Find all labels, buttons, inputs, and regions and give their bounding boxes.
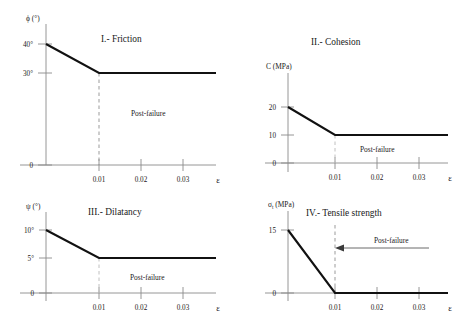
panel-title: III.- Dilatancy: [88, 207, 142, 217]
panel-title: I.- Friction: [101, 34, 142, 44]
data-series-cohesion: [288, 107, 448, 135]
x-tick-label-002: 0.02: [135, 176, 148, 184]
x-tick-label-003: 0.03: [177, 176, 190, 184]
panel-tensile-strength: σt (MPa) 15 0 0.01 0.02 0.03 ε IV.- Tens…: [229, 195, 459, 327]
y-axis-label: ψ (°): [26, 202, 41, 211]
x-tick-label-002: 0.02: [371, 304, 384, 312]
y-tick-label-30: 30°: [23, 70, 33, 78]
figure-root: ϕ (°) 40° 30° 0 0.01 0.02 0.03 ε I.- Fri…: [0, 0, 459, 327]
y-axis-label: σt (MPa): [268, 200, 295, 210]
y-tick-label-0: 0: [30, 290, 34, 298]
y-axis-label-units: (MPa): [273, 200, 294, 209]
x-tick-label-001: 0.01: [93, 304, 106, 312]
panel-tensile-strength-plot: σt (MPa) 15 0 0.01 0.02 0.03 ε IV.- Tens…: [229, 195, 459, 327]
data-series-tensile-strength: [288, 230, 448, 293]
y-axis-label: ϕ (°): [26, 14, 40, 23]
post-failure-annotation: Post-failure: [131, 109, 166, 118]
post-failure-annotation: Post-failure: [374, 236, 409, 245]
x-tick-label-001: 0.01: [329, 174, 342, 182]
y-tick-label-10: 10: [269, 132, 277, 140]
x-tick-label-002: 0.02: [135, 304, 148, 312]
post-failure-annotation: Post-failure: [360, 145, 395, 154]
panel-cohesion: C (MPa) 20 10 0 0.01 0.02 0.03 ε II.- Co…: [229, 0, 459, 195]
data-series-friction: [46, 44, 216, 73]
x-tick-label-003: 0.03: [413, 304, 426, 312]
x-axis-label: ε: [448, 173, 452, 183]
panel-friction-plot: ϕ (°) 40° 30° 0 0.01 0.02 0.03 ε I.- Fri…: [0, 0, 230, 195]
y-tick-label-0: 0: [272, 290, 276, 298]
y-axis-label: C (MPa): [266, 62, 292, 71]
data-series-dilatancy: [46, 230, 216, 258]
x-tick-label-003: 0.03: [413, 174, 426, 182]
post-failure-annotation: Post-failure: [130, 273, 165, 282]
x-axis-label: ε: [216, 175, 220, 185]
y-tick-label-20: 20: [269, 104, 277, 112]
y-tick-label-5: 5°: [28, 255, 35, 263]
y-tick-label-40: 40°: [23, 41, 33, 49]
x-tick-label-001: 0.01: [93, 176, 106, 184]
post-failure-arrow-head-icon: [335, 245, 344, 252]
y-tick-label-0: 0: [29, 162, 33, 170]
panel-cohesion-plot: C (MPa) 20 10 0 0.01 0.02 0.03 ε II.- Co…: [229, 0, 459, 195]
x-axis-label: ε: [216, 303, 220, 313]
x-tick-label-002: 0.02: [371, 174, 384, 182]
x-tick-label-001: 0.01: [329, 304, 342, 312]
panel-friction: ϕ (°) 40° 30° 0 0.01 0.02 0.03 ε I.- Fri…: [0, 0, 230, 195]
y-tick-label-15: 15: [269, 227, 277, 235]
panel-title: II.- Cohesion: [311, 37, 361, 47]
x-tick-label-003: 0.03: [177, 304, 190, 312]
y-tick-label-0: 0: [272, 160, 276, 168]
panel-title: IV.- Tensile strength: [306, 208, 382, 218]
x-axis-label: ε: [448, 303, 452, 313]
panel-dilatancy-plot: ψ (°) 10° 5° 0 0.01 0.02 0.03 ε III.- Di…: [0, 195, 230, 327]
y-tick-label-10: 10°: [24, 227, 34, 235]
panel-dilatancy: ψ (°) 10° 5° 0 0.01 0.02 0.03 ε III.- Di…: [0, 195, 230, 327]
